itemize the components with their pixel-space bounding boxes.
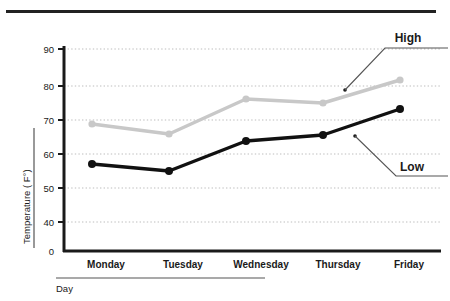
data-point-low-thursday — [319, 131, 327, 139]
series-low — [88, 105, 404, 175]
data-point-high-thursday — [319, 99, 326, 106]
x-tick-label-thursday: Thursday — [315, 259, 360, 270]
data-point-high-friday — [396, 76, 403, 83]
annotation-high-label: High — [395, 31, 422, 45]
gridlines — [64, 49, 440, 222]
line-chart: 90 80 70 60 50 40 0 Temperature ( F°) Mo… — [0, 0, 450, 301]
data-point-high-wednesday — [242, 95, 249, 102]
y-tick-label-90: 90 — [43, 44, 54, 55]
x-tick-label-monday: Monday — [87, 259, 125, 270]
x-tick-label-tuesday: Tuesday — [163, 259, 203, 270]
data-point-low-monday — [88, 160, 96, 168]
y-tick-label-40: 40 — [43, 217, 54, 228]
x-axis: Monday Tuesday Wednesday Thursday Friday… — [56, 251, 441, 294]
data-point-low-tuesday — [165, 167, 173, 175]
y-tick-label-80: 80 — [43, 81, 54, 92]
data-point-high-tuesday — [165, 130, 172, 137]
x-tick-label-wednesday: Wednesday — [233, 259, 289, 270]
x-tick-label-friday: Friday — [394, 259, 424, 270]
data-point-low-friday — [396, 105, 404, 113]
y-tick-label-50: 50 — [43, 183, 54, 194]
y-tick-label-60: 60 — [43, 149, 54, 160]
x-axis-title: Day — [56, 283, 73, 294]
y-axis: 90 80 70 60 50 40 0 Temperature ( F°) — [21, 44, 64, 257]
data-point-high-monday — [88, 120, 95, 127]
annotation-high-leader-line — [345, 48, 448, 90]
y-tick-label-70: 70 — [43, 115, 54, 126]
y-axis-title: Temperature ( F°) — [21, 169, 32, 244]
data-point-low-wednesday — [242, 137, 250, 145]
annotation-low: Low — [353, 134, 448, 176]
chart-page: 90 80 70 60 50 40 0 Temperature ( F°) Mo… — [0, 0, 450, 301]
y-tick-label-0: 0 — [49, 246, 54, 257]
annotation-low-label: Low — [400, 160, 425, 174]
